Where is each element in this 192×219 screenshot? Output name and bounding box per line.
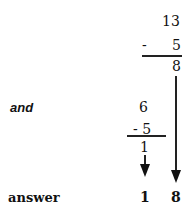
answer-label: answer (8, 190, 60, 205)
minuend-13: 13 (162, 14, 180, 28)
answer-digit-8: 8 (171, 190, 181, 204)
result-1: 1 (140, 140, 149, 154)
connector-and: and (10, 100, 33, 115)
answer-digit-1: 1 (140, 190, 150, 204)
minus-sign: - (142, 38, 147, 52)
result-line (142, 55, 182, 57)
arrow-line-8 (175, 76, 177, 176)
result-8: 8 (172, 59, 181, 73)
minus-5: - 5 (133, 122, 151, 136)
arrow-down-icon (171, 170, 181, 183)
arrow-down-icon (140, 164, 150, 177)
minuend-6: 6 (139, 100, 148, 114)
result-line (127, 135, 166, 137)
subtrahend-5: 5 (172, 38, 181, 52)
